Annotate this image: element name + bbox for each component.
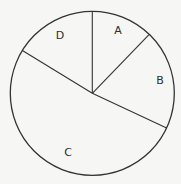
pie-chart: A B C D bbox=[0, 0, 181, 184]
sector-divider-3 bbox=[22, 50, 92, 93]
sector-divider-1 bbox=[92, 34, 149, 93]
label-b: B bbox=[156, 74, 164, 87]
label-d: D bbox=[56, 29, 64, 42]
label-a: A bbox=[114, 24, 122, 37]
label-c: C bbox=[64, 146, 72, 159]
pie-sectors bbox=[22, 11, 166, 128]
sector-divider-2 bbox=[92, 93, 166, 128]
